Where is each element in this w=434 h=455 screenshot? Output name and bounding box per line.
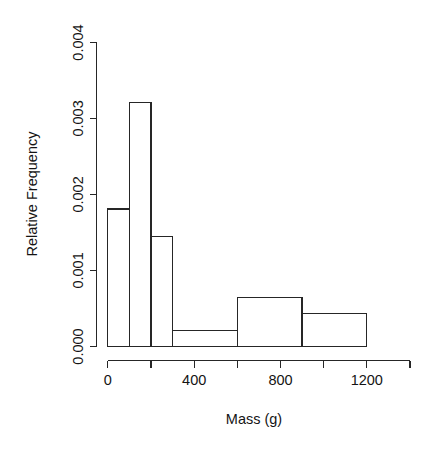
y-tick-label-0: 0.000	[70, 328, 86, 364]
x-tick-label-400: 400	[182, 372, 206, 388]
x-tick-label-0: 0	[104, 372, 112, 388]
plot-canvas: 0.000 0.001 0.002 0.003 0.004 Relative F…	[0, 0, 434, 455]
y-tick-label-2: 0.002	[70, 176, 86, 212]
y-tick-label-1: 0.001	[70, 252, 86, 288]
histogram-bar	[108, 209, 130, 347]
histogram-bar	[151, 236, 173, 346]
histogram-plot: 0.000 0.001 0.002 0.003 0.004 Relative F…	[0, 0, 434, 455]
x-tick-label-1200: 1200	[351, 372, 383, 388]
y-axis-title: Relative Frequency	[24, 131, 40, 257]
x-tick-label-800: 800	[268, 372, 292, 388]
histogram-bar	[302, 314, 367, 347]
x-axis-title: Mass (g)	[226, 411, 282, 427]
histogram-bar	[173, 331, 238, 347]
histogram-bar	[237, 297, 302, 346]
histogram-bar	[129, 103, 151, 347]
y-tick-label-3: 0.003	[70, 100, 86, 136]
y-tick-label-4: 0.004	[70, 24, 86, 60]
